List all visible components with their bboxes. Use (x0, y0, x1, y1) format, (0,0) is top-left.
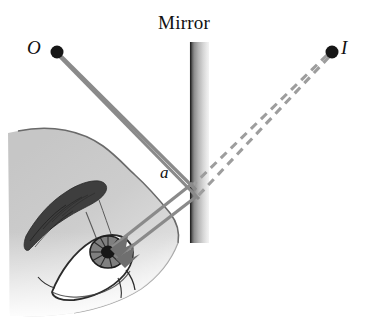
mirror-label: Mirror (0, 12, 368, 34)
mirror-bar (190, 42, 209, 243)
virtual-rays (192, 55, 329, 198)
diagram-canvas (0, 0, 368, 330)
mirror-ray-diagram: Mirror O I a (0, 0, 368, 330)
image-point-dot (326, 46, 339, 59)
object-point-dot (51, 46, 64, 59)
virtual-ray-2 (196, 57, 329, 198)
object-point-label: O (27, 37, 41, 59)
angle-label: a (160, 163, 169, 183)
image-point-label: I (341, 37, 347, 59)
virtual-ray-1 (192, 55, 327, 186)
